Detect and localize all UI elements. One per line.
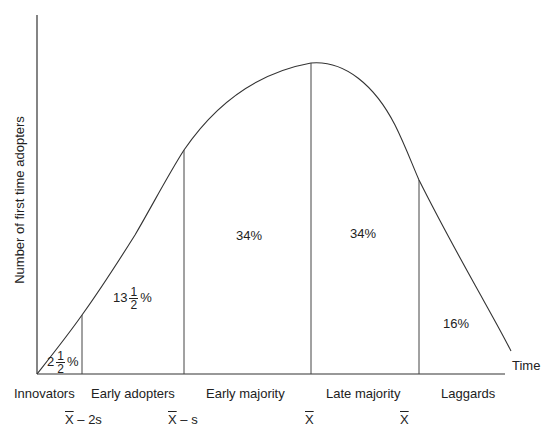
fraction: 12	[56, 350, 65, 375]
marker-mean-minus-2s: X – 2s	[65, 413, 102, 426]
fraction: 12	[129, 286, 138, 311]
pct-early-adopters: 1312%	[113, 286, 152, 311]
x-axis-label: Time	[512, 359, 540, 372]
pct-late-majority: 34%	[350, 227, 376, 240]
category-early-adopters: Early adopters	[91, 387, 175, 400]
marker-mean-right: X	[400, 413, 409, 426]
diffusion-curve-diagram	[0, 0, 553, 443]
category-laggards: Laggards	[441, 387, 495, 400]
marker-mean-minus-s: X – s	[168, 413, 198, 426]
adoption-curve	[37, 63, 511, 374]
category-innovators: Innovators	[14, 387, 75, 400]
pct-laggards: 16%	[443, 317, 469, 330]
y-axis-label: Number of first time adopters	[12, 116, 27, 284]
pct-early-majority: 34%	[236, 229, 262, 242]
category-early-majority: Early majority	[206, 387, 285, 400]
marker-mean: X	[305, 413, 314, 426]
category-late-majority: Late majority	[326, 387, 400, 400]
pct-innovators: 212%	[47, 350, 78, 375]
